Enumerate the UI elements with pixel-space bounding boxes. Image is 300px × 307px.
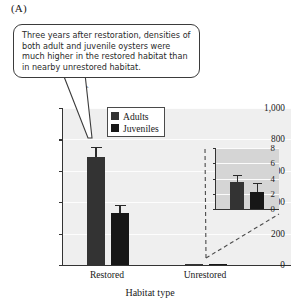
inset-y-tick-label: 8 (271, 143, 275, 153)
error-bar-restored-adults (95, 148, 96, 157)
error-bar-cap (115, 205, 126, 206)
error-bar-cap (253, 183, 262, 184)
bar-restored-juveniles (111, 213, 129, 265)
inset-gridline (216, 148, 279, 149)
gridline (63, 108, 291, 109)
callout-text: Three years after restoration, densities… (22, 30, 190, 72)
bar-unrestored-juveniles (209, 264, 227, 265)
y-tick-mark (59, 234, 63, 235)
x-tick-label-restored: Restored (90, 269, 124, 280)
y-tick-mark (59, 108, 63, 109)
inset-y-tick-mark (213, 163, 216, 164)
inset-error-bar-juveniles (257, 184, 258, 192)
legend-label-juveniles: Juveniles (123, 123, 159, 134)
inset-gridline (216, 194, 279, 195)
y-tick-label: 200 (271, 229, 285, 239)
inset-bar-adults (230, 182, 244, 209)
callout-box: Three years after restoration, densities… (13, 24, 200, 78)
y-tick-mark (59, 139, 63, 140)
inset-y-tick-label: 0 (271, 204, 275, 214)
y-tick-label: 1,000 (264, 103, 285, 113)
inset-gridline (216, 163, 279, 164)
x-axis-title: Habitat type (0, 287, 300, 298)
inset-y-tick-label: 4 (271, 174, 275, 184)
y-tick-label: 0 (280, 260, 285, 270)
y-tick-mark (59, 171, 63, 172)
legend-swatch-adults (111, 112, 119, 120)
y-tick-mark (59, 265, 63, 266)
bar-unrestored-adults (185, 264, 203, 265)
error-bar-restored-juveniles (119, 206, 120, 213)
error-bar-cap (233, 175, 242, 176)
bar-restored-adults (87, 157, 105, 265)
inset-y-tick-mark (213, 148, 216, 149)
inset-bar-juveniles (250, 192, 264, 210)
inset-plot-area: 8 6 4 2 0 (215, 148, 279, 210)
y-tick-mark (59, 202, 63, 203)
x-tick-label-unrestored: Unrestored (184, 269, 227, 280)
legend: Adults Juveniles (107, 107, 165, 137)
gridline (63, 139, 291, 140)
inset-chart: 8 6 4 2 0 (205, 148, 278, 220)
inset-error-bar-adults (237, 176, 238, 183)
inset-y-tick-mark (213, 209, 216, 210)
legend-label-adults: Adults (123, 111, 149, 122)
inset-y-tick-label: 6 (271, 158, 275, 168)
inset-y-tick-mark (213, 179, 216, 180)
legend-swatch-juveniles (111, 124, 119, 132)
legend-item-adults: Adults (111, 110, 159, 122)
inset-y-tick-mark (213, 194, 216, 195)
inset-gridline (216, 179, 279, 180)
error-bar-cap (91, 147, 102, 148)
inset-y-tick-label: 2 (271, 189, 275, 199)
legend-item-juveniles: Juveniles (111, 122, 159, 134)
